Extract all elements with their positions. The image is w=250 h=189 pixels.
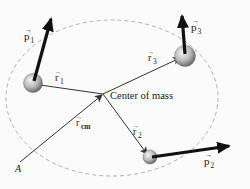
label-p3: p 3 → bbox=[191, 17, 202, 36]
center-of-mass-label: Center of mass bbox=[110, 90, 173, 101]
origin-a-label: A bbox=[14, 163, 22, 174]
svg-text:→: → bbox=[55, 69, 61, 75]
p1-momentum-vector bbox=[34, 19, 51, 81]
r1-vector bbox=[40, 85, 103, 94]
svg-text:→: → bbox=[148, 49, 154, 55]
svg-text:→: → bbox=[76, 114, 82, 120]
label-r2: r 2 → bbox=[133, 123, 142, 140]
svg-text:→: → bbox=[192, 17, 199, 25]
svg-text:cm: cm bbox=[81, 122, 91, 131]
svg-text:→: → bbox=[133, 123, 139, 129]
svg-text:3: 3 bbox=[153, 57, 157, 66]
label-r1: r 1 → bbox=[55, 69, 64, 86]
label-p2: p 2 → bbox=[204, 151, 215, 170]
svg-text:1: 1 bbox=[60, 77, 64, 86]
svg-text:→: → bbox=[25, 26, 32, 34]
r2-vector bbox=[103, 94, 147, 154]
svg-text:2: 2 bbox=[138, 131, 142, 140]
label-r-cm: r cm → bbox=[76, 114, 91, 131]
particle-1 bbox=[24, 74, 43, 93]
r3-vector bbox=[103, 58, 180, 94]
center-of-mass-diagram: p 1 → p 3 → p 2 → r 1 → r 3 → r 2 → bbox=[0, 0, 250, 189]
label-p1: p 1 → bbox=[24, 26, 35, 45]
p2-momentum-vector bbox=[152, 146, 229, 157]
label-r3: r 3 → bbox=[148, 49, 157, 66]
svg-text:3: 3 bbox=[198, 27, 202, 36]
diagram-canvas: p 1 → p 3 → p 2 → r 1 → r 3 → r 2 → bbox=[0, 0, 250, 189]
svg-text:→: → bbox=[205, 151, 212, 159]
svg-text:2: 2 bbox=[211, 161, 215, 170]
svg-text:1: 1 bbox=[31, 36, 35, 45]
